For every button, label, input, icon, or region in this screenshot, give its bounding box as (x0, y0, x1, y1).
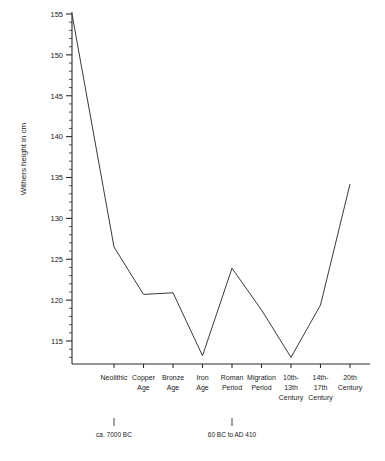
annotation-text: ca. 7000 BC (96, 431, 132, 438)
withers-height-chart: 115120125130135140145150155Withers heigh… (0, 0, 385, 461)
x-category-label-line: Neolithic (101, 374, 128, 381)
y-axis-title: Withers height in cm (19, 122, 28, 195)
x-category-label-line: Century (338, 384, 363, 392)
x-category-label-line: 13th (284, 384, 298, 391)
x-category-label-line: Iron (196, 374, 208, 381)
x-category-label: Neolithic (101, 374, 128, 381)
y-tick-label: 125 (50, 255, 63, 264)
y-tick-label: 135 (50, 173, 63, 182)
x-category-label: MigrationPeriod (247, 374, 276, 391)
x-category-label-line: Roman (221, 374, 244, 381)
y-tick-label: 140 (50, 132, 63, 141)
y-tick-label: 150 (50, 51, 63, 60)
x-category-label-line: Migration (247, 374, 276, 382)
x-category-label-line: 17th (314, 384, 328, 391)
x-category-label: 10th-13thCentury (279, 374, 304, 402)
x-category-label-line: Age (137, 384, 150, 392)
x-category-label-line: Age (196, 384, 209, 392)
x-category-label-line: Bronze (162, 374, 184, 381)
x-category-label: 20thCentury (338, 374, 363, 392)
x-category-label: BronzeAge (162, 374, 184, 392)
x-category-label-line: 10th- (283, 374, 300, 381)
x-annotation: 60 BC to AD 410 (208, 418, 257, 438)
x-category-label-line: Period (222, 384, 242, 391)
x-category-label: IronAge (196, 374, 209, 392)
y-tick-label: 115 (51, 337, 63, 346)
y-tick-label: 155 (50, 10, 63, 19)
x-category-label: RomanPeriod (221, 374, 244, 391)
x-category-label-line: Century (308, 394, 333, 402)
y-tick-label: 120 (50, 296, 63, 305)
x-category-label-line: Copper (132, 374, 156, 382)
x-category-label-line: 20th (343, 374, 357, 381)
chart-canvas: 115120125130135140145150155Withers heigh… (0, 0, 385, 461)
x-category-label-line: Period (251, 384, 271, 391)
x-category-label-line: Age (167, 384, 180, 392)
x-category-label: 14th-17thCentury (308, 374, 333, 402)
x-category-label-line: 14th- (313, 374, 330, 381)
y-tick-label: 145 (50, 92, 63, 101)
x-category-label: CopperAge (132, 374, 156, 392)
x-annotation: ca. 7000 BC (96, 418, 132, 438)
withers-height-series (72, 14, 350, 357)
x-category-label-line: Century (279, 394, 304, 402)
annotation-text: 60 BC to AD 410 (208, 431, 257, 438)
y-tick-label: 130 (50, 214, 63, 223)
